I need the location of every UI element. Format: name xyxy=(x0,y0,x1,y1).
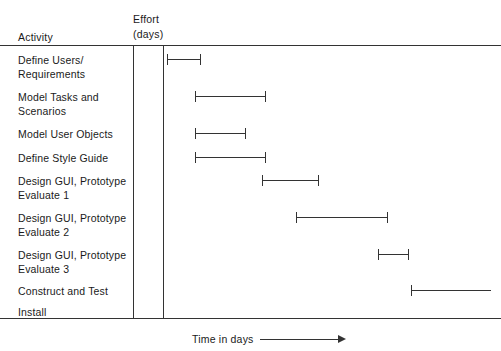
column-header-activity: Activity xyxy=(18,31,53,44)
bar-stem xyxy=(195,96,266,97)
gantt-bar-define-style-guide xyxy=(195,152,266,163)
gantt-bar-design-gui-prototype-evaluate-3 xyxy=(378,249,409,260)
gantt-chart-figure: Activity Effort (days) Define Users/ Req… xyxy=(0,0,501,351)
activity-label-line: Install xyxy=(18,305,130,319)
arrow-head xyxy=(338,335,346,343)
activity-label-line: Design GUI, Prototype xyxy=(18,174,130,188)
activity-label-line: Evaluate 1 xyxy=(18,188,130,202)
activity-label-row-0: Define Users/ Requirements xyxy=(18,53,130,81)
activity-label-line: Define Users/ xyxy=(18,53,130,67)
axis-caption-label: Time in days xyxy=(192,333,254,345)
activity-label-row-4: Design GUI, Prototype Evaluate 1 xyxy=(18,174,130,202)
activity-label-line: Define Style Guide xyxy=(18,151,130,165)
activity-label-line: Design GUI, Prototype xyxy=(18,248,130,262)
arrow-shaft xyxy=(260,339,339,340)
bar-stem xyxy=(378,254,409,255)
effort-column-divider xyxy=(163,45,164,319)
bar-end-cap-icon xyxy=(265,91,266,102)
gantt-bar-model-tasks-scenarios xyxy=(195,91,266,102)
axis-caption: Time in days xyxy=(192,333,346,345)
activity-label-row-7: Construct and Test xyxy=(18,284,130,298)
activity-label-row-3: Define Style Guide xyxy=(18,151,130,165)
bar-stem xyxy=(262,180,319,181)
bar-stem xyxy=(296,217,388,218)
activity-label-line: Construct and Test xyxy=(18,284,130,298)
bar-stem xyxy=(195,133,246,134)
column-header-effort-line2: (days) xyxy=(133,28,163,41)
activity-label-row-6: Design GUI, Prototype Evaluate 3 xyxy=(18,248,130,276)
bar-end-cap-icon xyxy=(200,54,201,65)
activity-label-line: Evaluate 2 xyxy=(18,225,130,239)
activity-label-row-5: Design GUI, Prototype Evaluate 2 xyxy=(18,211,130,239)
activity-label-row-1: Model Tasks and Scenarios xyxy=(18,90,130,118)
gantt-bar-model-user-objects xyxy=(195,128,246,139)
bar-end-cap-icon xyxy=(387,212,388,223)
gantt-bar-define-users-requirements xyxy=(167,54,201,65)
column-header-effort-line1: Effort xyxy=(133,13,159,26)
bar-end-cap-icon xyxy=(318,175,319,186)
gantt-bar-construct-and-test xyxy=(411,285,491,296)
bar-stem xyxy=(411,290,491,291)
activity-label-line: Requirements xyxy=(18,67,130,81)
bar-stem xyxy=(167,59,201,60)
bar-end-cap-icon xyxy=(265,152,266,163)
right-arrow-icon xyxy=(260,335,346,344)
bar-end-cap-icon xyxy=(408,249,409,260)
activity-label-line: Scenarios xyxy=(18,104,130,118)
activity-label-line: Design GUI, Prototype xyxy=(18,211,130,225)
bar-end-cap-icon xyxy=(245,128,246,139)
header-separator-line xyxy=(0,45,501,46)
gantt-bar-design-gui-prototype-evaluate-1 xyxy=(262,175,319,186)
activity-label-line: Model Tasks and xyxy=(18,90,130,104)
activity-label-row-2: Model User Objects xyxy=(18,127,130,141)
activity-label-line: Model User Objects xyxy=(18,127,130,141)
gantt-bar-design-gui-prototype-evaluate-2 xyxy=(296,212,388,223)
activity-column-divider xyxy=(133,45,134,319)
activity-label-row-8: Install xyxy=(18,305,130,319)
bar-stem xyxy=(195,157,266,158)
activity-label-line: Evaluate 3 xyxy=(18,262,130,276)
